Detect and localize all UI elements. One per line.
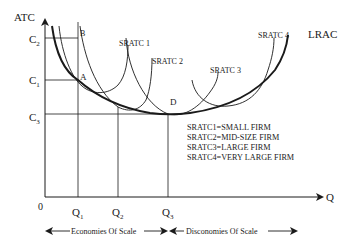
q3-label: Q3 bbox=[162, 206, 174, 221]
legend-item: SRATC2=MID-SIZE FIRM bbox=[187, 133, 280, 142]
lrac-label: LRAC bbox=[308, 28, 337, 40]
sratc2-label: SRATC 2 bbox=[152, 57, 183, 66]
legend: SRATC1=SMALL FIRM SRATC2=MID-SIZE FIRM S… bbox=[187, 123, 295, 162]
q1-label: Q1 bbox=[72, 206, 84, 221]
origin-label: 0 bbox=[38, 201, 43, 212]
lrac-diagram: ATC Q 0 C2 C1 C3 Q1 Q2 Q3 B A D SRATC 1 … bbox=[0, 0, 349, 250]
c1-label: C1 bbox=[29, 74, 40, 89]
sratc3-label: SRATC 3 bbox=[210, 66, 241, 75]
point-b-label: B bbox=[80, 29, 85, 38]
c2-label: C2 bbox=[29, 33, 40, 48]
legend-item: SRATC3=LARGE FIRM bbox=[187, 143, 271, 152]
economies-label: Economies Of Scale bbox=[71, 227, 137, 236]
economies-of-scale-indicator: Economies Of Scale bbox=[47, 227, 166, 236]
diseconomies-label: Disconomies Of Scale bbox=[186, 227, 258, 236]
legend-item: SRATC1=SMALL FIRM bbox=[187, 123, 271, 132]
sratc4-label: SRATC 4 bbox=[258, 31, 289, 40]
y-axis-label: ATC bbox=[14, 11, 35, 23]
diseconomies-of-scale-indicator: Disconomies Of Scale bbox=[171, 227, 296, 236]
x-axis-label: Q bbox=[326, 191, 334, 203]
point-a-label: A bbox=[80, 72, 87, 82]
c3-label: C3 bbox=[29, 111, 40, 126]
q2-label: Q2 bbox=[112, 206, 124, 221]
legend-item: SRATC4=VERY LARGE FIRM bbox=[187, 153, 295, 162]
sratc1-label: SRATC 1 bbox=[119, 39, 150, 48]
sratc1-curve bbox=[59, 26, 128, 93]
point-d-label: D bbox=[170, 97, 177, 107]
